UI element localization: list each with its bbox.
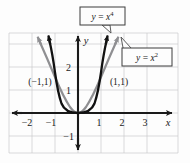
y-tick-label-2: 2 [66,62,71,73]
callout-x2-equals: = [140,53,150,63]
math-figure: −2 −1 1 2 3 2 1 −1 x y (−1,1) (1,1) y = … [0,0,190,163]
y-axis-label: y [83,35,89,46]
callout-x2-exponent: 2 [155,51,158,58]
y-tick-label-1: 1 [66,85,71,96]
x-tick-label-3: 3 [143,117,148,128]
x-tick-label--1: −1 [46,117,57,128]
x-tick-label-2: 2 [120,117,125,128]
callout-x2-text: y = x2 [135,51,158,63]
callout-x4-equals: = [96,12,106,22]
x-tick-label--2: −2 [22,117,33,128]
y-tick-label--1: −1 [63,131,74,142]
x-tick-label-1: 1 [97,117,102,128]
point-label-minus-one-one: (−1,1) [28,77,52,88]
point-label-one-one: (1,1) [110,77,128,88]
x-axis-label: x [165,117,171,128]
